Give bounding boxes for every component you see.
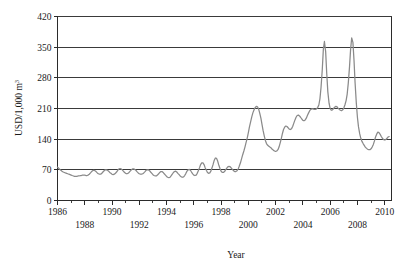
y-tick-label-350: 350 xyxy=(37,43,52,53)
y-axis-title-exponent: 3 xyxy=(13,80,20,83)
x-tick-label-2008: 2008 xyxy=(348,220,367,230)
x-tick-label-2002: 2002 xyxy=(266,207,285,217)
x-tick-label-1992: 1992 xyxy=(130,220,149,230)
x-tick-label-1998: 1998 xyxy=(212,207,231,217)
x-tick-label-1990: 1990 xyxy=(103,207,122,217)
x-tick-label-2006: 2006 xyxy=(321,207,340,217)
x-tick-label-2004: 2004 xyxy=(293,220,312,230)
y-tick-labels-group: 070140210280350420 xyxy=(37,12,57,206)
x-tick-labels-group: 1986199019941998200220062010198819921996… xyxy=(48,207,394,230)
series-group xyxy=(58,38,390,178)
y-axis-title-base: USD/1,000 m xyxy=(14,83,24,136)
y-tick-label-0: 0 xyxy=(47,196,52,206)
y-tick-label-140: 140 xyxy=(37,135,52,145)
y-tick-label-420: 420 xyxy=(37,12,52,22)
x-tick-label-1986: 1986 xyxy=(48,207,67,217)
x-tick-marks-group xyxy=(58,201,385,205)
series-line-Price xyxy=(58,38,390,178)
x-tick-label-1996: 1996 xyxy=(184,220,203,230)
x-tick-label-1994: 1994 xyxy=(157,207,176,217)
x-tick-label-2000: 2000 xyxy=(239,220,258,230)
chart-container: 070140210280350420 198619901994199820022… xyxy=(0,0,419,263)
y-axis-title: USD/1,000 m3 xyxy=(13,80,25,136)
svg-text:USD/1,000 m3: USD/1,000 m3 xyxy=(13,80,25,136)
line-chart: 070140210280350420 198619901994199820022… xyxy=(0,0,419,263)
x-tick-label-1988: 1988 xyxy=(75,220,94,230)
y-tick-label-70: 70 xyxy=(42,165,52,175)
y-tick-label-280: 280 xyxy=(37,73,52,83)
y-tick-label-210: 210 xyxy=(37,104,52,114)
gridlines-group xyxy=(58,17,392,170)
x-tick-label-2010: 2010 xyxy=(375,207,394,217)
x-axis-title: Year xyxy=(227,250,245,260)
